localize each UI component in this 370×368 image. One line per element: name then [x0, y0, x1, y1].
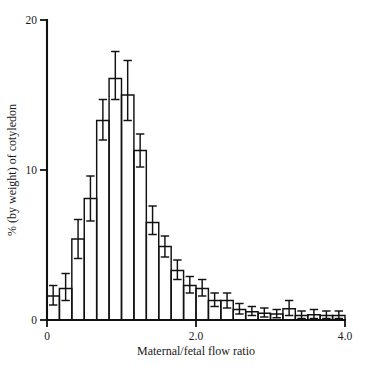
error-bar: [335, 311, 343, 319]
error-bar: [260, 308, 268, 317]
histogram-bars: [47, 79, 345, 321]
x-tick-label: 2.0: [189, 330, 204, 342]
histogram-figure: 01020 % (by weight) of cotyledon 02.04.0…: [0, 0, 370, 368]
y-tick-label: 0: [31, 314, 37, 326]
error-bar: [235, 304, 243, 315]
error-bar: [61, 274, 69, 301]
y-axis-title: % (by weight) of cotyledon: [5, 104, 19, 236]
y-tick-label: 10: [26, 164, 38, 176]
x-tick-label: 0: [44, 330, 50, 342]
error-bar: [49, 286, 57, 306]
histogram-bar: [146, 223, 158, 321]
error-bar: [99, 100, 107, 141]
y-axis-tick-labels: 01020: [26, 14, 38, 326]
histogram-bar: [109, 79, 121, 321]
error-bar: [111, 52, 119, 100]
x-tick-label: 4.0: [338, 330, 353, 342]
error-bar: [248, 307, 256, 316]
histogram-bar: [134, 151, 146, 321]
error-bar: [173, 260, 181, 280]
x-axis-tick-labels: 02.04.0: [44, 330, 352, 342]
histogram-bar: [122, 95, 134, 320]
error-bars: [49, 52, 343, 319]
x-axis-group: 02.04.0 Maternal/fetal flow ratio: [44, 320, 352, 358]
error-bar: [210, 293, 218, 307]
error-bar: [123, 61, 131, 121]
chart-canvas: 01020 % (by weight) of cotyledon 02.04.0…: [0, 0, 370, 368]
y-tick-label: 20: [26, 14, 38, 26]
error-bar: [310, 310, 318, 319]
error-bar: [322, 311, 330, 319]
error-bar: [198, 280, 206, 297]
y-axis-group: 01020 % (by weight) of cotyledon: [5, 14, 47, 326]
error-bar: [186, 277, 194, 294]
error-bar: [285, 301, 293, 316]
error-bar: [297, 311, 305, 319]
histogram-bar: [97, 121, 109, 321]
x-axis-title: Maternal/fetal flow ratio: [137, 344, 255, 358]
error-bar: [148, 206, 156, 235]
